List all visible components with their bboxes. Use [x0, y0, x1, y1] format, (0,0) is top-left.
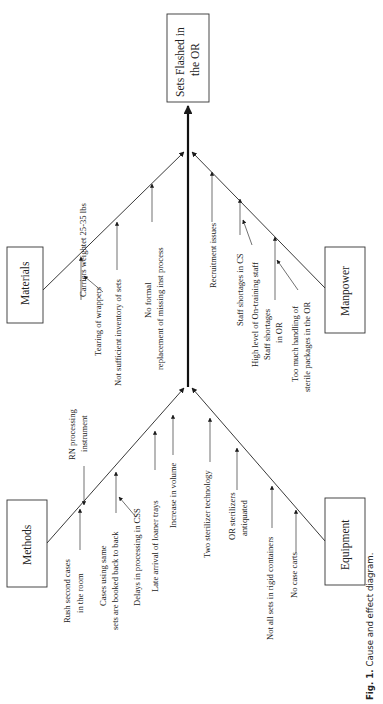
- fishbone-diagram: Sets Flashed in the OR Materials Manpowe…: [0, 0, 383, 704]
- cause-carriers-weight: Carriers weightet 25-35 lbs: [78, 203, 88, 297]
- caption-prefix: Fig. 1.: [365, 670, 375, 700]
- manpower-box: Manpower: [325, 247, 365, 333]
- equipment-box: Equipment: [325, 498, 365, 585]
- equipment-label: Equipment: [339, 519, 352, 570]
- cause-or-sterilizers-line2: antiquated: [239, 500, 249, 536]
- materials-label: Materials: [19, 261, 31, 305]
- methods-causes: RN processing instrument Rush second cas…: [62, 408, 178, 630]
- manpower-label: Manpower: [339, 266, 352, 316]
- cause-cases-same-sets-line2: sets are booked back to back: [110, 531, 120, 630]
- cause-staff-shortage-cs: Staff shortages in CS: [235, 253, 245, 326]
- cause-increase-volume: Increase in volume: [168, 462, 178, 528]
- figure-caption: Fig. 1.Cause and effect diagram.: [365, 553, 375, 700]
- cause-rn-processing-line2: instrument: [79, 415, 89, 452]
- cause-on-training-staff: High level of On-training staff: [250, 262, 260, 367]
- cause-delays-css: Delays in processing in CSS: [132, 508, 142, 606]
- effect-label-line2: the OR: [189, 43, 201, 76]
- cause-cases-same-sets-line1: Cases using same: [98, 545, 108, 606]
- methods-label: Methods: [21, 524, 33, 565]
- cause-two-sterilizer: Two sterilizer technology: [202, 470, 212, 558]
- materials-box: Materials: [7, 247, 43, 323]
- cause-handling-packages-line2: sterile packages in the OR: [302, 302, 312, 392]
- cause-staff-shortage-or-line1: Staff shortages: [262, 308, 272, 360]
- cause-no-formal-line2: replacement of missing inst process: [155, 247, 165, 370]
- effect-label-line1: Sets Flashed in: [174, 27, 186, 97]
- cause-loaner-trays: Late arrival of loaner trays: [150, 500, 160, 592]
- cause-no-case-carts: No case carts: [289, 552, 299, 598]
- cause-or-sterilizers-line1: OR sterilizers: [227, 492, 237, 540]
- cause-staff-shortage-or-line2: in OR: [274, 322, 284, 343]
- cause-recruitment: Recruitment issues: [208, 222, 218, 288]
- cause-rigid-containers: Not all sets in rigid containers: [265, 536, 275, 640]
- equipment-causes: Two sterilizer technology OR sterilizers…: [202, 418, 299, 640]
- cause-rush-second-line1: Rush second cases: [62, 558, 72, 623]
- caption-text: Cause and effect diagram.: [365, 553, 375, 667]
- manpower-causes: Recruitment issues Staff shortages in CS…: [208, 172, 312, 392]
- cause-rn-processing-line1: RN processing: [67, 408, 77, 460]
- methods-box: Methods: [7, 500, 47, 587]
- effect-box: Sets Flashed in the OR: [167, 14, 209, 102]
- cause-handling-packages-line1: Too much handling of: [290, 306, 300, 382]
- materials-causes: Carriers weightet 25-35 lbs Tearing of w…: [78, 184, 165, 386]
- cause-insufficient-inventory: Not sufficient inventory of sets: [113, 279, 123, 386]
- cause-tearing-wrappers: Tearing of wrappers: [93, 286, 103, 356]
- cause-no-formal-line1: No formal: [143, 282, 153, 318]
- cause-rush-second-line2: in the room: [75, 573, 85, 613]
